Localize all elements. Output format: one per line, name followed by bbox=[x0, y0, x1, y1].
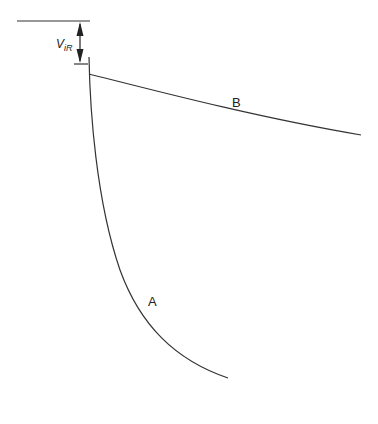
curve-b-label: B bbox=[232, 95, 241, 110]
curve-a-label: A bbox=[148, 294, 157, 309]
dimension-label: ViR bbox=[56, 37, 73, 53]
curve-a bbox=[89, 57, 228, 378]
dimension-arrow bbox=[77, 22, 84, 63]
arrowhead-up-icon bbox=[77, 22, 84, 36]
arrowhead-down-icon bbox=[77, 49, 84, 63]
diagram-canvas: ViR A B bbox=[0, 0, 378, 424]
curve-b bbox=[89, 74, 361, 135]
